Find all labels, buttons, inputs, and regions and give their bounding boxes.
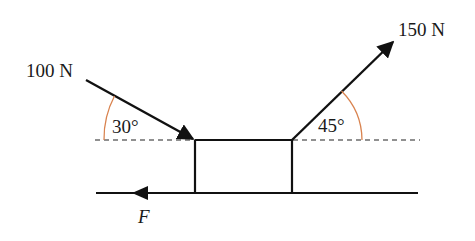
force-100-label: 100 N [26,60,73,81]
block [195,140,292,193]
angle-30-label: 30° [112,116,139,137]
friction-arrow-head-icon [132,186,148,200]
force-150-label: 150 N [398,19,445,40]
force-diagram: 100 N 30° 150 N 45° F [0,0,475,241]
angle-45-label: 45° [318,115,345,136]
force-100-arrow [86,80,193,139]
friction-label: F [137,206,150,227]
